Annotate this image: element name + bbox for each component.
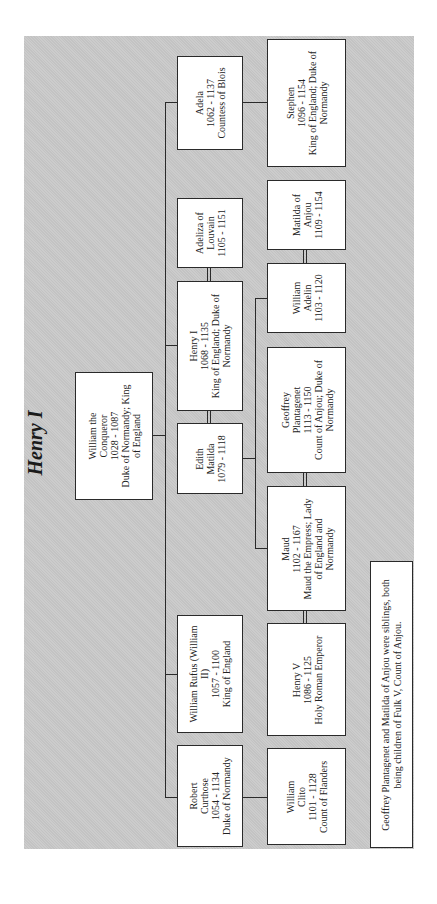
person-dates: 1109 - 1154: [312, 191, 323, 239]
person-name: Adelin: [301, 284, 312, 311]
marriage-matilda-william-adelin: [303, 250, 307, 263]
person-dates: 1079 - 1118: [216, 435, 227, 483]
person-name: Edith: [194, 448, 205, 470]
trunk-to-robert: [165, 797, 177, 798]
trunk-to-maud: [255, 548, 267, 549]
person-name: Robert: [188, 782, 199, 809]
person-title: Duke of Normandy; King: [120, 384, 131, 487]
person-name: Adela: [194, 91, 205, 115]
person-box-edith-matilda: Edith Matilda 1079 - 1118: [177, 423, 243, 494]
person-dates: 1068 - 1135: [199, 322, 210, 370]
marriage-henry1-adeliza: [207, 268, 211, 281]
person-box-adela: Adela 1062 - 1137 Countess of Blois: [177, 56, 243, 150]
person-title: Holy Roman Emperor: [312, 635, 323, 724]
person-name: Clito: [296, 787, 307, 807]
person-title: Normandy: [221, 325, 232, 368]
person-title: Count of Anjou; Duke of: [312, 360, 323, 460]
robert-to-clito: [242, 797, 267, 798]
trunk-to-henry1: [165, 345, 177, 346]
person-name: Plantagenet: [290, 387, 301, 434]
person-dates: 1102 - 1167: [290, 525, 301, 573]
person-title: of England and: [312, 518, 323, 579]
person-title: King of England; Duke of: [210, 294, 221, 398]
person-name: Stephen: [285, 87, 296, 119]
person-name: Conqueror: [98, 415, 109, 458]
person-box-adeliza-of-louvain: Adeliza of Louvain 1105 - 1151: [177, 198, 243, 268]
trunk-to-rufus: [165, 674, 177, 675]
person-dates: 1103 - 1120: [312, 274, 323, 322]
person-name: William Rufus (William: [188, 626, 199, 723]
person-dates: 1028 - 1087: [109, 412, 120, 460]
adela-to-stephen: [242, 102, 267, 103]
footnote-text: being children of Fulk V, Count of Anjou…: [392, 621, 404, 788]
person-title: King of England; Duke of: [307, 51, 318, 155]
person-box-stephen: Stephen 1096 - 1154 King of England; Duk…: [267, 39, 346, 167]
henry1-children-trunk: [255, 298, 256, 548]
edith-to-children-connector: [242, 458, 255, 459]
person-box-william-rufus: William Rufus (William II) 1057 - 1100 K…: [177, 615, 243, 733]
trunk-to-william-adelin: [255, 298, 267, 299]
trunk-to-adela: [165, 102, 177, 103]
title-text: Henry I: [24, 411, 46, 476]
person-name: Maud: [279, 537, 290, 560]
footnote-box: Geoffrey Plantagenet and Matilda of Anjo…: [370, 561, 413, 848]
person-name: Curthose: [199, 778, 210, 814]
person-title: Duke of Normandy: [221, 757, 232, 835]
diagram-title: Henry I: [22, 405, 48, 481]
family-tree-diagram: Henry I William the Conqueror 1028 - 108…: [0, 0, 437, 904]
person-dates: 1057 - 1100: [210, 650, 221, 698]
person-box-maud: Maud 1102 - 1167 Maud the Empress; Lady …: [267, 486, 346, 611]
person-dates: 1105 - 1151: [216, 209, 227, 257]
person-box-henry-i: Henry I 1068 - 1135 King of England; Duk…: [177, 281, 243, 411]
person-name: Adeliza of: [194, 212, 205, 254]
person-name: Henry I: [188, 331, 199, 362]
person-name: Matilda: [205, 443, 216, 474]
person-dates: 1086 - 1125: [301, 656, 312, 704]
person-title: Normandy: [318, 82, 329, 125]
person-name: Anjou: [301, 203, 312, 228]
person-box-william-the-conqueror: William the Conqueror 1028 - 1087 Duke o…: [75, 372, 153, 500]
person-title: Normandy: [323, 527, 334, 570]
person-dates: 1054 - 1134: [210, 772, 221, 820]
person-dates: 1062 - 1137: [205, 79, 216, 127]
person-box-henry-v: Henry V 1086 - 1125 Holy Roman Emperor: [267, 623, 346, 736]
marriage-geoffrey-maud: [303, 473, 307, 486]
person-name: William the: [87, 412, 98, 459]
person-title: Countess of Blois: [216, 67, 227, 138]
person-dates: 1101 - 1128: [307, 773, 318, 821]
marriage-henry1-edith: [207, 411, 211, 423]
person-title: Count of Flanders: [318, 760, 329, 832]
root-to-trunk-connector: [152, 435, 165, 436]
person-box-robert-curthose: Robert Curthose 1054 - 1134 Duke of Norm…: [177, 745, 243, 847]
person-name: Henry V: [290, 662, 301, 697]
footnote-text: Geoffrey Plantagenet and Matilda of Anjo…: [380, 579, 392, 831]
person-title: King of England: [221, 641, 232, 708]
person-title: Maud the Empress; Lady: [301, 498, 312, 599]
person-box-william-clito: William Clito 1101 - 1128 Count of Fland…: [267, 748, 346, 845]
marriage-maud-henry5: [303, 611, 307, 623]
person-dates: 1096 - 1154: [296, 79, 307, 127]
person-title: of England: [131, 414, 142, 458]
generation2-trunk: [165, 102, 166, 797]
person-box-matilda-of-anjou: Matilda of Anjou 1109 - 1154: [267, 180, 346, 250]
person-name: Matilda of: [290, 194, 301, 236]
person-name: William: [290, 282, 301, 314]
person-dates: 1113 - 1150: [301, 386, 312, 433]
person-box-william-adelin: William Adelin 1103 - 1120: [267, 263, 346, 333]
person-box-geoffrey-plantagenet: Geoffrey Plantagenet 1113 - 1150 Count o…: [267, 347, 346, 473]
person-name: Louvain: [205, 216, 216, 249]
person-title: Normandy: [323, 389, 334, 432]
person-name: II): [199, 669, 210, 679]
person-name: William: [285, 780, 296, 812]
person-name: Geoffrey: [279, 392, 290, 428]
